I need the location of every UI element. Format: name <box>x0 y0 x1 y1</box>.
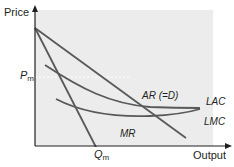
y-axis-label: Price <box>4 6 29 18</box>
x-axis-label: Output <box>193 149 226 161</box>
pm-label-sub: m <box>27 74 34 83</box>
mr-label: MR <box>120 128 136 139</box>
qm-label-sub: m <box>103 153 110 162</box>
qm-label: Qm <box>94 148 109 162</box>
x-axis-arrow-icon <box>225 143 232 149</box>
pm-label: Pm <box>20 69 34 83</box>
y-axis-arrow-icon <box>32 5 38 12</box>
monopoly-chart <box>0 0 234 167</box>
lac-label: LAC <box>206 96 225 107</box>
plot-area <box>35 10 213 146</box>
qm-label-main: Q <box>94 148 103 160</box>
ar-label: AR (=D) <box>142 90 178 101</box>
lmc-label: LMC <box>204 116 225 127</box>
